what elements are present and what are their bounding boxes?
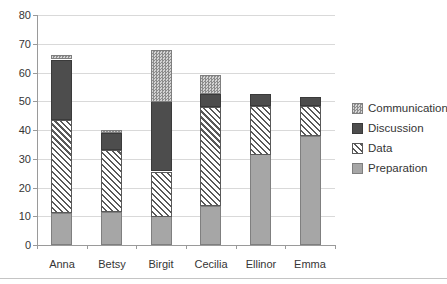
x-axis-tick	[37, 245, 38, 249]
x-axis-label-ellinor: Ellinor	[236, 258, 286, 271]
bar-ellinor-data	[250, 106, 271, 155]
y-axis-label: 50	[5, 95, 31, 107]
bar-betsy-discussion	[101, 133, 122, 150]
x-axis-label-betsy: Betsy	[87, 258, 137, 271]
x-axis-tick	[236, 245, 237, 249]
y-axis-label: 10	[5, 210, 31, 222]
bar-anna-discussion	[51, 60, 72, 120]
gridline-70	[37, 44, 335, 45]
legend-item-discussion: Discussion	[352, 122, 447, 134]
y-axis	[37, 15, 38, 246]
bar-cecilia-discussion	[200, 94, 221, 107]
bar-cecilia-preparation	[200, 206, 221, 245]
bar-betsy-preparation	[101, 212, 122, 245]
bar-cecilia-communication	[200, 75, 221, 94]
bar-emma-data	[300, 106, 321, 136]
bar-birgit-discussion	[151, 101, 172, 171]
y-axis-label: 60	[5, 67, 31, 79]
gridline-40	[37, 130, 335, 131]
bar-ellinor-discussion	[250, 94, 271, 106]
bar-ellinor-preparation	[250, 154, 271, 245]
x-axis-tick	[186, 245, 187, 249]
bar-birgit-preparation	[151, 216, 172, 245]
legend-label: Preparation	[368, 162, 427, 174]
bar-anna-data	[51, 120, 72, 213]
y-axis-label: 70	[5, 38, 31, 50]
gridline-50	[37, 101, 335, 102]
legend-label: Communication	[368, 102, 447, 114]
legend-item-data: Data	[352, 142, 447, 154]
bar-anna-preparation	[51, 213, 72, 245]
legend-swatch-data	[352, 143, 363, 154]
gridline-10	[37, 216, 335, 217]
legend: CommunicationDiscussionDataPreparation	[352, 102, 447, 174]
x-axis-label-cecilia: Cecilia	[186, 258, 236, 271]
y-axis-label: 30	[5, 153, 31, 165]
x-axis-tick	[136, 245, 137, 249]
x-axis-tick	[87, 245, 88, 249]
gridline-20	[37, 188, 335, 189]
x-axis-label-emma: Emma	[285, 258, 335, 271]
bar-cecilia-data	[200, 107, 221, 206]
y-axis-label: 20	[5, 182, 31, 194]
legend-label: Discussion	[368, 122, 424, 134]
x-axis-tick	[285, 245, 286, 249]
legend-item-communication: Communication	[352, 102, 447, 114]
legend-item-preparation: Preparation	[352, 162, 447, 174]
bar-betsy-communication	[101, 130, 122, 133]
legend-swatch-discussion	[352, 123, 363, 134]
gridline-80	[37, 15, 335, 16]
bar-emma-discussion	[300, 97, 321, 106]
x-axis-label-anna: Anna	[37, 258, 87, 271]
stacked-bar-chart: CommunicationDiscussionDataPreparation 0…	[0, 0, 447, 284]
y-axis-label: 80	[5, 9, 31, 21]
x-axis-label-birgit: Birgit	[136, 258, 186, 271]
page-divider-line	[0, 278, 447, 279]
legend-swatch-communication	[352, 103, 363, 114]
y-axis-label: 0	[5, 239, 31, 251]
bar-birgit-data	[151, 172, 172, 217]
bar-anna-communication	[51, 55, 72, 59]
x-axis-tick	[335, 245, 336, 249]
gridline-60	[37, 73, 335, 74]
y-axis-label: 40	[5, 124, 31, 136]
legend-label: Data	[368, 142, 392, 154]
gridline-30	[37, 159, 335, 160]
bar-birgit-communication	[151, 50, 172, 102]
legend-swatch-preparation	[352, 163, 363, 174]
bar-betsy-data	[101, 150, 122, 212]
bar-emma-preparation	[300, 136, 321, 245]
